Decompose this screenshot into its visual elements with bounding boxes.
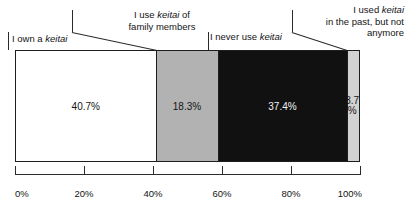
callout-label-own: I own a keitai xyxy=(12,33,67,45)
axis-tick xyxy=(222,166,223,175)
axis-tick-label: 80% xyxy=(281,188,300,199)
callout-past-post: in the past, but not anymore xyxy=(326,16,404,39)
bar-segment-own: 40.7% xyxy=(16,51,156,161)
bar-segment-family: 18.3% xyxy=(156,51,219,161)
axis-tick xyxy=(360,166,361,175)
callout-family-em: keitai xyxy=(157,9,179,20)
axis-tick xyxy=(84,166,85,175)
leader-line-family-diagonal xyxy=(72,32,157,51)
axis-tick-label: 20% xyxy=(74,188,93,199)
x-axis-tick-labels: 0% 20% 40% 60% 80% 100% xyxy=(0,188,407,202)
axis-tick xyxy=(153,166,154,175)
callout-own-pre: I own a xyxy=(12,33,45,44)
callout-never-em: keitai xyxy=(260,31,282,42)
callout-label-never: I never use keitai xyxy=(210,31,282,43)
leader-line-past-stem xyxy=(292,10,293,32)
leader-line-own xyxy=(8,32,9,50)
segment-divider xyxy=(156,51,157,161)
bar-value-past: 3.7 % xyxy=(345,96,359,116)
callout-past-pre: I used xyxy=(353,4,382,15)
callout-own-em: keitai xyxy=(45,33,67,44)
x-axis xyxy=(15,174,360,183)
callout-family-pre: I use xyxy=(134,9,157,20)
axis-tick xyxy=(15,166,16,175)
callout-label-past: I used keitai in the past, but not anymo… xyxy=(292,4,404,39)
bar-segment-past: 3.7 % xyxy=(347,51,359,161)
leader-line-family-stem xyxy=(72,10,73,32)
axis-tick-label: 40% xyxy=(143,188,162,199)
leader-line-never xyxy=(208,32,209,50)
axis-tick-label: 60% xyxy=(212,188,231,199)
bar-segment-never: 37.4% xyxy=(218,51,346,161)
callout-label-family: I use keitai of family members xyxy=(118,9,206,32)
stacked-bar-chart: I own a keitai I use keitai of family me… xyxy=(0,0,407,213)
callout-past-em: keitai xyxy=(382,4,404,15)
bar-value-own: 40.7% xyxy=(72,101,100,112)
bar-track: 40.7% 18.3% 37.4% 3.7 % xyxy=(15,50,360,162)
segment-divider xyxy=(218,51,219,161)
axis-tick-label: 0% xyxy=(15,188,29,199)
axis-tick-label: 100% xyxy=(338,188,362,199)
axis-tick xyxy=(291,166,292,175)
bar-value-never: 37.4% xyxy=(268,101,296,112)
callout-never-pre: I never use xyxy=(210,31,260,42)
bar-value-family: 18.3% xyxy=(173,101,201,112)
